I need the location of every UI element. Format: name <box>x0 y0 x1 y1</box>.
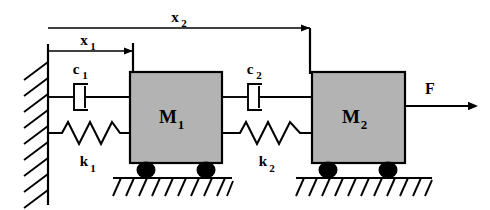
mass-m2: M 2 <box>312 72 405 163</box>
m2-label-subscript: 2 <box>361 117 368 132</box>
x2-label-subscript: 2 <box>181 17 187 29</box>
wall <box>24 44 48 208</box>
m2-label: M <box>342 106 360 127</box>
m1-label: M <box>159 106 177 127</box>
m1-label-subscript: 1 <box>178 117 185 132</box>
spring-k1: k 1 <box>48 122 130 174</box>
displacement-x1: x 1 <box>48 32 133 74</box>
force-arrow: F <box>405 80 478 110</box>
x1-label-subscript: 1 <box>90 40 96 52</box>
k1-label-subscript: 1 <box>90 162 96 174</box>
diagram-canvas: x 2 x 1 c 1 k 1 M 1 <box>0 0 490 210</box>
spring-k2: k 2 <box>222 122 312 174</box>
k2-label-subscript: 2 <box>269 162 275 174</box>
c1-label-subscript: 1 <box>82 69 88 81</box>
ground-m2 <box>296 178 432 196</box>
x2-label: x <box>171 9 179 25</box>
c1-label: c <box>73 61 80 77</box>
damper-c1: c 1 <box>48 61 130 110</box>
c2-label-subscript: 2 <box>256 69 262 81</box>
ground-m1 <box>113 178 233 196</box>
c2-label: c <box>247 61 254 77</box>
k1-label: k <box>80 153 89 169</box>
mass-m1: M 1 <box>130 72 222 163</box>
damper-c2: c 2 <box>222 61 312 110</box>
x1-label: x <box>80 32 88 48</box>
force-label: F <box>425 80 435 97</box>
k2-label: k <box>259 153 268 169</box>
